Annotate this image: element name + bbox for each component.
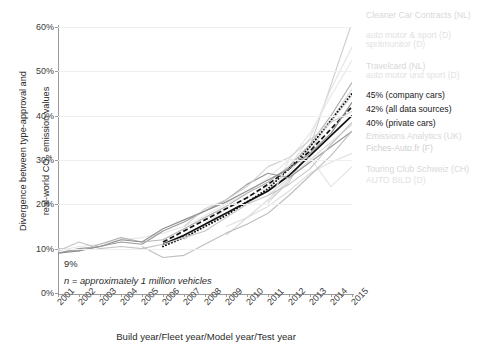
series-line [58, 82, 352, 250]
series-label: spritmonitor (D) [366, 39, 425, 49]
series-label: 40% (private cars) [366, 118, 436, 128]
series-line [226, 153, 352, 226]
x-tick-label: 2015 [349, 286, 370, 307]
y-axis-title: Divergence between type-approval and rea… [6, 26, 52, 276]
gridline [58, 71, 352, 72]
series-label: Touring Club Schweiz (CH) [366, 164, 469, 174]
annotation-9-percent: 9% [64, 258, 78, 269]
series-label: auto motor & sport (D) [366, 30, 451, 40]
series-line [142, 131, 352, 257]
y-tick-mark [55, 249, 58, 250]
series-line [163, 107, 352, 242]
series-label: Fiches-Auto.fr (F) [366, 143, 433, 153]
y-tick-label: 60% [36, 22, 54, 32]
y-tick-label: 0% [41, 288, 54, 298]
y-tick-label: 20% [36, 199, 54, 209]
y-tick-label: 10% [36, 244, 54, 254]
y-tick-mark [55, 116, 58, 117]
plot-area: 0%10%20%30%40%50%60% [58, 27, 352, 293]
series-line [226, 89, 352, 235]
series-label: 42% (all data sources) [366, 104, 452, 114]
series-label: AUTO BILD (D) [366, 175, 426, 185]
x-axis-title: Build year/Fleet year/Model year/Test ye… [58, 331, 354, 342]
annotation-sample-size: n = approximately 1 million vehicles [64, 275, 212, 286]
series-label: Travelcard (NL) [366, 61, 425, 71]
series-line [184, 47, 352, 240]
gridline [58, 160, 352, 161]
series-label: Cleaner Car Contracts (NL) [366, 10, 471, 20]
gridline [58, 204, 352, 205]
y-tick-label: 40% [36, 111, 54, 121]
y-tick-mark [55, 71, 58, 72]
gridline [58, 116, 352, 117]
gridline [58, 27, 352, 28]
series-label: auto motor und sport (D) [366, 70, 460, 80]
series-label: Emissions Analytics (UK) [366, 131, 462, 141]
y-axis-title-line2b: emission values [41, 87, 51, 155]
y-tick-mark [55, 27, 58, 28]
gridline [58, 249, 352, 250]
y-tick-mark [55, 160, 58, 161]
y-tick-label: 30% [36, 155, 54, 165]
y-tick-label: 50% [36, 66, 54, 76]
y-axis-title-line1: Divergence between type-approval and [18, 71, 28, 231]
y-tick-mark [55, 204, 58, 205]
chart-root: Divergence between type-approval and rea… [0, 0, 483, 352]
series-label: 45% (company cars) [366, 90, 445, 100]
